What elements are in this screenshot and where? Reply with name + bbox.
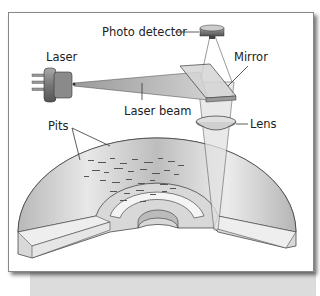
label-lens: Lens <box>250 117 277 131</box>
compact-disc <box>18 138 296 258</box>
lens <box>196 116 236 130</box>
label-mirror: Mirror <box>234 50 268 64</box>
label-laser-beam: Laser beam <box>124 104 192 118</box>
label-laser: Laser <box>46 50 78 64</box>
cd-diagram: Photo detector Laser Mirror Laser beam P… <box>0 0 320 296</box>
label-photo-detector: Photo detector <box>102 25 187 39</box>
label-pits: Pits <box>48 119 68 133</box>
laser-device <box>32 68 76 102</box>
photo-detector <box>200 25 224 39</box>
